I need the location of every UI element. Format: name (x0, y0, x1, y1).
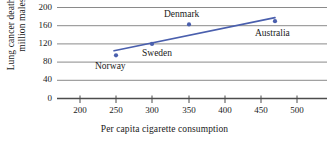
scatter-chart-figure: 200 160 120 80 40 0 200 250 300 350 400 … (0, 0, 329, 144)
data-point-norway (114, 53, 118, 57)
x-tick-label-500: 500 (282, 105, 312, 115)
data-points (114, 19, 277, 57)
x-tick-label-200: 200 (65, 105, 95, 115)
data-point-denmark (187, 22, 191, 26)
y-axis-title: Lung cancer deaths per million males (6, 0, 29, 80)
y-tick-label-0: 0 (26, 93, 52, 103)
x-tick-label-450: 450 (246, 105, 276, 115)
x-tick-label-350: 350 (174, 105, 204, 115)
point-label-sweden: Sweden (142, 48, 172, 58)
x-axis-title: Per capita cigarette consumption (0, 124, 329, 134)
point-label-denmark: Denmark (164, 9, 199, 19)
x-tick-label-250: 250 (101, 105, 131, 115)
x-tick-label-400: 400 (210, 105, 240, 115)
data-point-australia (273, 19, 277, 23)
trend-line (114, 18, 275, 51)
data-point-sweden (150, 42, 154, 46)
x-tick-marks (80, 96, 297, 104)
point-label-australia: Australia (255, 28, 290, 38)
y-axis-title-container: Lung cancer deaths per million males (0, 0, 34, 80)
x-tick-label-300: 300 (137, 105, 167, 115)
point-label-norway: Norway (95, 61, 126, 71)
